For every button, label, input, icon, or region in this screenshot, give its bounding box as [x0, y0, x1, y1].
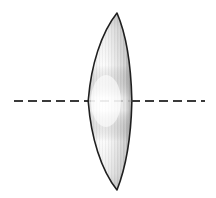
lens-figure: Plano-convex lens cross-section with opt… — [0, 0, 216, 198]
lens-center-highlight — [91, 75, 121, 127]
lens-diagram-canvas: Plano-convex lens cross-section with opt… — [0, 0, 216, 198]
